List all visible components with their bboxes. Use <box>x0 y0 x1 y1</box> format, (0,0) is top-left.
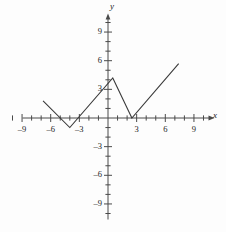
axes-group <box>23 14 215 220</box>
coordinate-plane <box>0 0 226 232</box>
y-tick-label: –9 <box>78 198 102 208</box>
y-tick-label: –6 <box>78 169 102 179</box>
y-axis-arrowhead <box>106 14 111 20</box>
graph-figure: y x –9–6–3369963–3–6–9 <box>0 0 226 232</box>
x-tick-label: 9 <box>182 124 206 134</box>
y-tick-label: 9 <box>78 26 102 36</box>
x-tick-label: –6 <box>39 124 63 134</box>
x-tick-label: –9 <box>10 124 34 134</box>
y-tick-label: 3 <box>78 83 102 93</box>
x-tick-label: –3 <box>67 124 91 134</box>
x-axis-label: x <box>213 110 217 120</box>
y-tick-label: –3 <box>78 141 102 151</box>
x-tick-label: 3 <box>125 124 149 134</box>
y-tick-label: 6 <box>78 55 102 65</box>
x-tick-label: 6 <box>153 124 177 134</box>
y-axis-label: y <box>110 1 114 11</box>
